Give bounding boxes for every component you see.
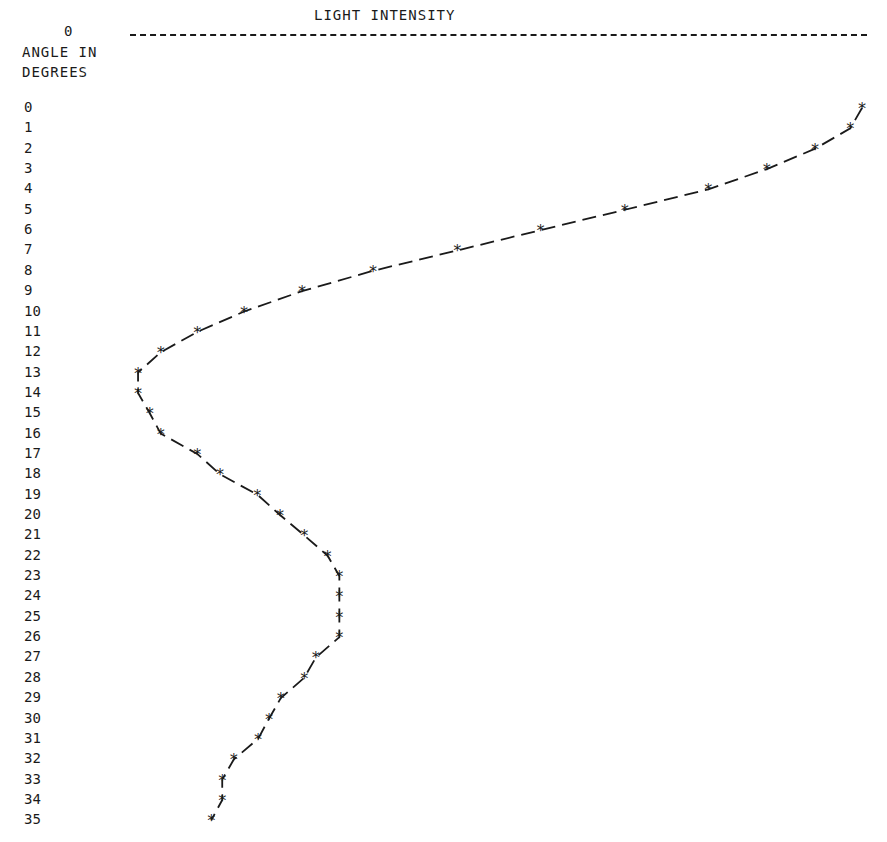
data-point-asterisk: *: [215, 465, 225, 484]
data-point-asterisk: *: [253, 730, 263, 749]
data-point-asterisk: *: [536, 221, 546, 240]
data-point-asterisk: *: [217, 791, 227, 810]
data-point-asterisk: *: [156, 425, 166, 444]
data-point-asterisk: *: [156, 343, 166, 362]
intensity-curve: [138, 108, 862, 820]
data-point-asterisk: *: [845, 119, 855, 138]
data-point-asterisk: *: [239, 303, 249, 322]
data-point-asterisk: *: [323, 547, 333, 566]
data-point-asterisk: *: [275, 506, 285, 525]
data-point-asterisk: *: [335, 587, 345, 606]
data-point-asterisk: *: [297, 282, 307, 301]
data-point-asterisk: *: [810, 140, 820, 159]
data-point-asterisk: *: [229, 750, 239, 769]
data-point-asterisk: *: [206, 811, 216, 830]
data-point-asterisk: *: [335, 608, 345, 627]
data-point-asterisk: *: [133, 384, 143, 403]
data-point-asterisk: *: [703, 180, 713, 199]
data-point-asterisk: *: [620, 201, 630, 220]
data-point-asterisk: *: [299, 526, 309, 545]
data-point-asterisk: *: [335, 628, 345, 647]
data-point-asterisk: *: [253, 486, 263, 505]
data-point-asterisk: *: [452, 241, 462, 260]
data-point-asterisk: *: [145, 404, 155, 423]
data-point-asterisk: *: [276, 689, 286, 708]
data-point-asterisk: *: [193, 445, 203, 464]
data-point-asterisk: *: [762, 160, 772, 179]
data-point-asterisk: *: [857, 99, 867, 118]
data-point-asterisk: *: [264, 710, 274, 729]
data-point-asterisk: *: [299, 669, 309, 688]
data-point-asterisk: *: [133, 364, 143, 383]
data-point-asterisk: *: [217, 771, 227, 790]
plot-area: ************************************: [0, 0, 887, 842]
data-point-asterisk: *: [335, 567, 345, 586]
data-point-asterisk: *: [368, 262, 378, 281]
data-point-asterisk: *: [311, 648, 321, 667]
data-point-asterisk: *: [193, 323, 203, 342]
